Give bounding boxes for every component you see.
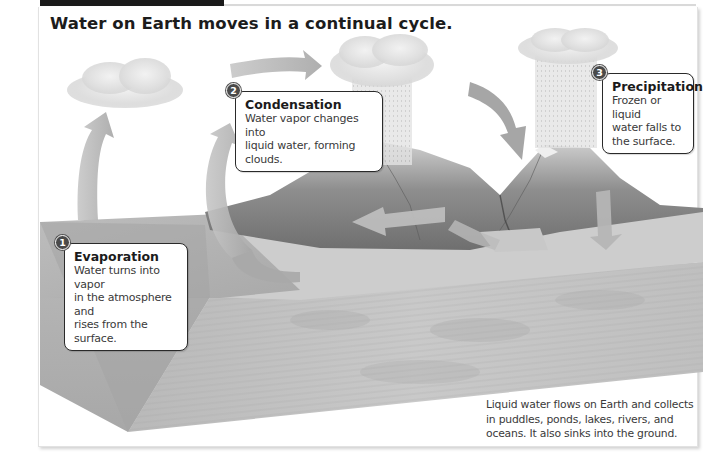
step-badge-2: 2 bbox=[226, 83, 241, 98]
callout-body-line: the surface. bbox=[612, 135, 686, 149]
callout-body-line: liquid water, forming clouds. bbox=[245, 139, 375, 166]
callout-evaporation: Evaporation Water turns into vapor in th… bbox=[64, 243, 188, 351]
callout-body-line: Water turns into vapor bbox=[74, 264, 180, 291]
callout-precipitation: Precipitation Frozen or liquid water fal… bbox=[602, 73, 694, 154]
caption-line: in puddles, ponds, lakes, rivers, and bbox=[486, 413, 696, 428]
precipitation-arrow-down bbox=[468, 82, 526, 160]
callout-body-line: in the atmosphere and bbox=[74, 291, 180, 318]
callout-title: Precipitation bbox=[612, 79, 686, 94]
callout-body-line: rises from the surface. bbox=[74, 318, 180, 345]
callout-body-line: Water vapor changes into bbox=[245, 112, 375, 139]
callout-body-line: Frozen or liquid bbox=[612, 94, 686, 121]
wind-arrow-right bbox=[230, 50, 322, 80]
callout-title: Evaporation bbox=[74, 249, 180, 264]
caption-line: Liquid water flows on Earth and collects bbox=[486, 398, 696, 413]
callout-condensation: Condensation Water vapor changes into li… bbox=[235, 91, 383, 172]
runoff-caption: Liquid water flows on Earth and collects… bbox=[486, 398, 696, 442]
callout-body-line: water falls to bbox=[612, 121, 686, 135]
cloud-left bbox=[67, 58, 183, 108]
step-badge-1: 1 bbox=[55, 235, 70, 250]
callout-title: Condensation bbox=[245, 97, 375, 112]
caption-line: oceans. It also sinks into the ground. bbox=[486, 427, 696, 442]
evaporation-arrow-left bbox=[78, 112, 114, 220]
step-badge-3: 3 bbox=[592, 65, 607, 80]
